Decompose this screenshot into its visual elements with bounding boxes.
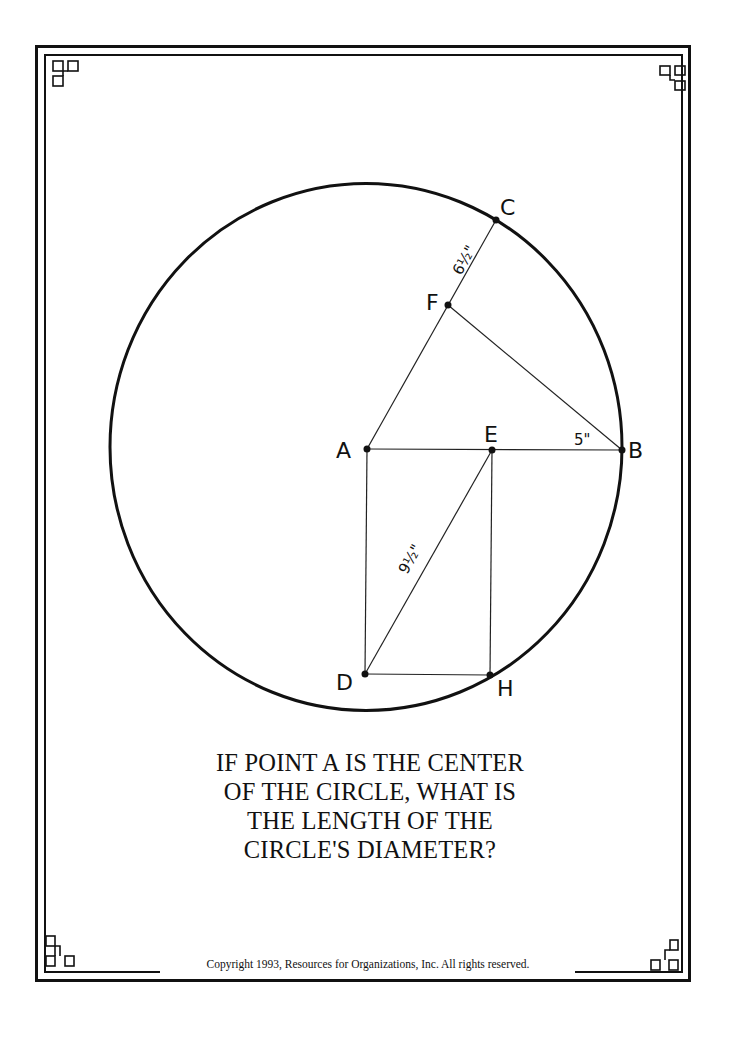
point-f [445,302,452,309]
corner-ornament-bottom-right-icon [651,940,678,970]
corner-ornament-bottom-left-icon [46,936,74,966]
label-a: A [336,440,351,462]
question-line-3: THE LENGTH OF THE [150,806,590,835]
label-c: C [500,197,515,219]
segment-a-d [365,449,367,674]
point-h [487,672,494,679]
point-d [362,671,369,678]
label-d: D [336,672,353,694]
length-label-eb: 5" [574,431,590,449]
segment-d-h [365,674,490,675]
length-label-fc: 6½" [449,242,480,278]
question-text: IF POINT A IS THE CENTER OF THE CIRCLE, … [150,748,590,864]
label-h: H [497,678,514,700]
point-a [364,446,371,453]
corner-ornament-top-right-icon [660,66,685,90]
question-line-2: OF THE CIRCLE, WHAT IS [150,777,590,806]
geometry-diagram: 6½" 5" 9½" [0,0,735,1041]
label-b: B [628,440,643,462]
label-e: E [484,424,498,446]
label-f: F [426,292,439,314]
corner-ornament-top-left-icon [53,61,78,86]
question-line-4: CIRCLE'S DIAMETER? [150,835,590,864]
segment-e-h [490,450,492,675]
point-c [493,217,500,224]
point-b [619,447,626,454]
question-line-1: IF POINT A IS THE CENTER [150,748,590,777]
segment-d-e [365,450,492,674]
copyright-notice: Copyright 1993, Resources for Organizati… [163,958,573,970]
point-e [489,447,496,454]
length-label-de: 9½" [395,541,426,577]
segment-f-b [448,305,622,450]
